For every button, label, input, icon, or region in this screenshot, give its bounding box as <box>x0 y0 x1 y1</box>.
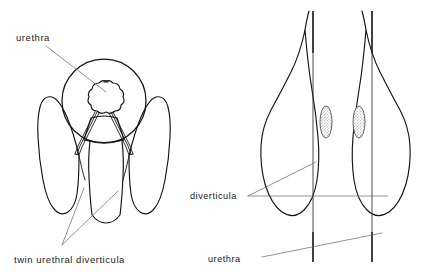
urethral-collar <box>84 116 124 143</box>
left-duct-mid <box>77 112 97 154</box>
right-diverticulum-wing <box>129 97 170 214</box>
left-wing-fold <box>79 156 85 180</box>
leader-urethra-left <box>46 46 106 92</box>
urethral-ring <box>62 59 146 143</box>
left-panel-group: urethra twin urethral diverticula <box>14 32 170 265</box>
right-panel-group: diverticula urethra <box>190 11 410 264</box>
left-leaf-outline <box>261 30 319 216</box>
right-wing-fold <box>123 156 129 180</box>
left-diverticulum-wing <box>38 97 79 214</box>
right-duct-mid <box>111 112 131 154</box>
label-urethra-right: urethra <box>208 254 241 264</box>
leader-diverticula-right-b <box>248 162 316 196</box>
central-column <box>89 141 124 223</box>
right-diverticulum-oval <box>353 106 365 138</box>
leader-diverticula-left-b <box>62 188 84 245</box>
figure-canvas: urethra twin urethral diverticula <box>0 0 447 272</box>
scalloped-urethral-lumen <box>88 81 124 114</box>
label-diverticula-right: diverticula <box>190 191 237 201</box>
label-urethra-left: urethra <box>16 32 50 43</box>
label-twin-urethral-diverticula: twin urethral diverticula <box>14 254 125 265</box>
right-duct-inner <box>109 113 129 155</box>
left-leaf-apex <box>305 11 309 30</box>
anatomical-figure: urethra twin urethral diverticula <box>0 0 447 272</box>
leader-urethra-right <box>262 233 382 257</box>
right-leaf-apex <box>362 11 366 30</box>
left-diverticulum-oval <box>320 106 332 138</box>
